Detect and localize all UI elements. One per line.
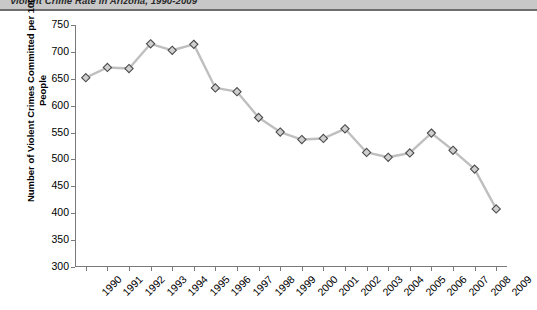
data-point-marker <box>211 84 219 92</box>
x-tick-label: 2005 <box>423 273 448 298</box>
plot-area: 300350400450500550600650700750 199019911… <box>75 25 507 267</box>
x-tick-mark <box>129 267 130 271</box>
x-tick-mark <box>345 267 346 271</box>
y-axis-title-line1: Number of Violent Crimes Committed per 1… <box>25 0 36 202</box>
x-tick-mark <box>323 267 324 271</box>
series-line <box>86 44 496 209</box>
y-axis-title: Number of Violent Crimes Committed per 1… <box>25 0 48 206</box>
chart-container: Number of Violent Crimes Committed per 1… <box>0 11 537 310</box>
data-point-marker <box>190 40 198 48</box>
x-tick-label: 2004 <box>401 273 426 298</box>
x-tick-label: 1995 <box>207 273 232 298</box>
x-tick-mark <box>172 267 173 271</box>
data-point-marker <box>298 135 306 143</box>
data-point-marker <box>319 134 327 142</box>
x-tick-label: 1992 <box>142 273 167 298</box>
x-tick-label: 1994 <box>185 273 210 298</box>
series-markers <box>82 40 501 213</box>
caption-band: Violent Crime Rate in Arizona, 1990-2009 <box>0 0 537 11</box>
y-tick-label: 450 <box>51 179 69 191</box>
y-tick-label: 500 <box>51 152 69 164</box>
x-tick-mark <box>259 267 260 271</box>
x-tick-label: 1998 <box>271 273 296 298</box>
series-violent-crime-rate <box>75 25 507 267</box>
x-tick-mark <box>431 267 432 271</box>
x-tick-label: 2007 <box>466 273 491 298</box>
x-tick-mark <box>410 267 411 271</box>
x-tick-label: 1991 <box>120 273 145 298</box>
x-tick-mark <box>151 267 152 271</box>
x-tick-label: 1990 <box>99 273 124 298</box>
x-tick-label: 2001 <box>336 273 361 298</box>
x-tick-label: 2003 <box>379 273 404 298</box>
y-tick-label: 350 <box>51 233 69 245</box>
y-tick-label: 600 <box>51 99 69 111</box>
x-tick-mark <box>107 267 108 271</box>
y-tick-label: 650 <box>51 72 69 84</box>
x-tick-mark <box>86 267 87 271</box>
x-tick-label: 2008 <box>487 273 512 298</box>
data-point-marker <box>168 46 176 54</box>
x-tick-mark <box>194 267 195 271</box>
y-axis-title-line2: People <box>36 75 47 106</box>
x-tick-label: 1997 <box>250 273 275 298</box>
x-tick-mark <box>388 267 389 271</box>
x-tick-label: 2006 <box>444 273 469 298</box>
data-point-marker <box>82 74 90 82</box>
data-point-marker <box>103 63 111 71</box>
x-tick-label: 1996 <box>228 273 253 298</box>
x-tick-mark <box>215 267 216 271</box>
y-tick-label: 700 <box>51 45 69 57</box>
x-tick-label: 2000 <box>315 273 340 298</box>
x-tick-label: 2002 <box>358 273 383 298</box>
x-tick-mark <box>302 267 303 271</box>
x-tick-mark <box>496 267 497 271</box>
y-tick-label: 550 <box>51 126 69 138</box>
y-tick-mark <box>71 267 75 268</box>
y-tick-label: 400 <box>51 206 69 218</box>
x-tick-mark <box>280 267 281 271</box>
y-tick-label: 750 <box>51 18 69 30</box>
x-tick-mark <box>237 267 238 271</box>
x-tick-label: 1999 <box>293 273 318 298</box>
y-tick-label: 300 <box>51 260 69 272</box>
x-tick-label: 1993 <box>163 273 188 298</box>
x-tick-label: 2009 <box>509 273 534 298</box>
x-tick-mark <box>453 267 454 271</box>
x-tick-mark <box>367 267 368 271</box>
data-point-marker <box>384 153 392 161</box>
x-tick-mark <box>475 267 476 271</box>
